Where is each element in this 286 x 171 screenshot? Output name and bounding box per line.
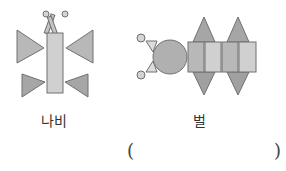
bee-body-segment-4 [239, 42, 256, 72]
butterfly-wing-lower-right [65, 74, 88, 97]
bee-antenna-tip-bottom [137, 71, 145, 79]
butterfly-antenna-tip-right [62, 11, 68, 17]
butterfly-wing-upper-left [17, 30, 44, 63]
bee-label: 벌 [193, 110, 206, 130]
butterfly-wing-upper-right [66, 30, 93, 63]
bee-body-segment-1 [188, 42, 204, 72]
answer-open-paren: ( [127, 140, 134, 161]
answer-close-paren: ) [274, 140, 281, 161]
bee-body-segment-3 [222, 42, 238, 72]
bee-head [153, 40, 187, 74]
bee-wing-top-1 [193, 17, 215, 42]
bee-wing-bottom-2 [227, 72, 249, 95]
bee-wing-top-2 [227, 17, 249, 42]
bee-figure [137, 17, 256, 95]
butterfly-wing-lower-left [22, 74, 45, 97]
answer-blank[interactable] [140, 142, 270, 162]
bee-antenna-tip-top [137, 34, 145, 42]
bee-wing-bottom-1 [193, 72, 215, 95]
butterfly-figure [17, 11, 93, 97]
butterfly-label: 나비 [41, 110, 67, 130]
butterfly-body [47, 33, 63, 93]
butterfly-antenna-tip-left [43, 11, 49, 17]
bee-body-segment-2 [205, 42, 221, 72]
